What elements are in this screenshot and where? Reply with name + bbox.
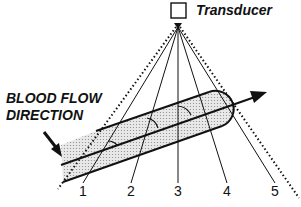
flow-label-line1: BLOOD FLOW <box>6 90 102 107</box>
beam-label-5: 5 <box>267 183 283 199</box>
transducer-icon <box>171 3 186 18</box>
flow-label-pointer-arrow <box>44 132 62 157</box>
beam-label-3: 3 <box>170 183 186 199</box>
beam-label-4: 4 <box>219 183 235 199</box>
transducer-label: Transducer <box>196 2 272 18</box>
blood-flow-direction-label: BLOOD FLOW DIRECTION <box>6 90 102 124</box>
beam-label-1: 1 <box>75 183 91 199</box>
flow-label-line2: DIRECTION <box>6 107 102 124</box>
beam-label-2: 2 <box>123 183 139 199</box>
doppler-diagram: Transducer BLOOD FLOW DIRECTION 1 2 3 4 … <box>0 0 301 207</box>
